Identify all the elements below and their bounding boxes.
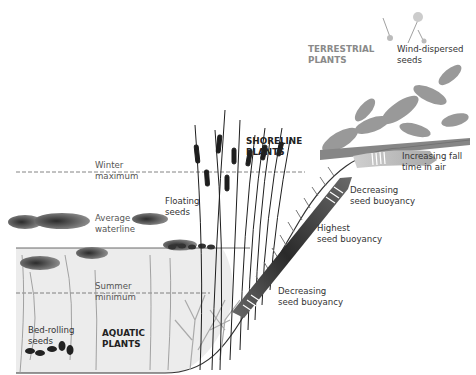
dandelion-seed-icon <box>408 12 423 43</box>
summer-minimum-label-line1: Summer <box>95 281 132 291</box>
terrestrial-plants <box>319 61 470 160</box>
lily-pad-icon <box>76 247 108 259</box>
seed-icon <box>59 341 66 351</box>
fall-time-label-line2: time in air <box>402 162 446 172</box>
winter-maximum-label-line2: maximum <box>95 171 138 181</box>
decreasing-upper-label-line1: Decreasing <box>350 185 398 195</box>
aquatic-label-line1: AQUATIC <box>102 328 145 338</box>
wind-dispersed-seeds-label-line1: Wind-dispersed <box>397 44 464 54</box>
aquatic-label-line2: PLANTS <box>102 339 141 349</box>
highest-buoyancy-label-line2: seed buoyancy <box>317 234 382 244</box>
terrestrial-label-line1: TERRESTRIAL <box>308 44 375 54</box>
lily-pad-icon <box>34 213 90 229</box>
cattail-icon <box>232 148 236 164</box>
decreasing-lower-label-line1: Decreasing <box>278 286 326 296</box>
average-waterline-label-line1: Average <box>95 213 130 223</box>
average-waterline-label-line2: waterline <box>95 224 135 234</box>
fall-time-label-line1: Increasing fall <box>402 151 462 161</box>
wind-dispersed-seed-group <box>383 12 427 44</box>
seed-icon <box>25 348 35 354</box>
seed-icon <box>67 345 74 355</box>
seed-icon <box>47 346 57 352</box>
highest-buoyancy-label-line1: Highest <box>317 223 351 233</box>
shoreline-label-line2: PLANTS <box>246 147 285 157</box>
seed-icon <box>198 244 206 249</box>
shoreline-label-line1: SHORELINE <box>246 136 302 146</box>
cattail-icon <box>225 175 229 191</box>
decreasing-lower-label-line2: seed buoyancy <box>278 297 343 307</box>
seed-icon <box>207 245 215 250</box>
bed-rolling-seeds-label-line2: seeds <box>28 336 54 346</box>
summer-minimum-label-line2: minimum <box>95 292 136 302</box>
dandelion-seed-icon <box>418 30 427 44</box>
winter-maximum-label-line1: Winter <box>95 160 124 170</box>
terrestrial-label-line2: PLANTS <box>308 55 347 65</box>
floating-seeds-label-line1: Floating <box>165 196 200 206</box>
cattail-icon <box>216 135 222 153</box>
decreasing-upper-label-line2: seed buoyancy <box>350 196 415 206</box>
wind-dispersed-seeds-label-line2: seeds <box>397 55 423 65</box>
lily-pad-icon <box>20 256 60 270</box>
seed-icon <box>168 245 176 250</box>
cattail-icon <box>194 145 200 163</box>
seed-icon <box>35 350 45 356</box>
bed-rolling-seeds-label-line1: Bed-rolling <box>28 325 74 335</box>
seed-dispersal-diagram: SHORELINE PLANTS TERRESTRIAL PLANTS AQUA… <box>0 0 476 375</box>
dandelion-seed-icon <box>383 18 393 41</box>
cattail-icon <box>204 170 209 186</box>
floating-seeds-label-line2: seeds <box>165 207 191 217</box>
lily-pad-icon <box>132 213 168 225</box>
seed-icon <box>188 245 196 250</box>
seed-icon <box>178 244 186 249</box>
